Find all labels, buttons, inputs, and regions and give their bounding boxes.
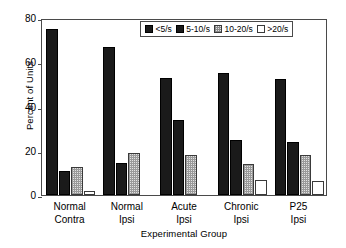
bar: [255, 180, 267, 195]
x-tick-label-line2: Ipsi: [270, 213, 327, 226]
x-tick-label-line1: Normal: [53, 201, 85, 212]
y-axis-tick-labels: 020406080: [10, 0, 36, 248]
x-tick-label: AcuteIpsi: [155, 200, 212, 226]
bar-group: [99, 20, 156, 195]
bar-series-container: [42, 20, 326, 195]
y-tick-label: 60: [10, 58, 36, 68]
bar: [287, 142, 299, 195]
x-tick-label-line1: P25: [289, 201, 307, 212]
x-tick-label-line2: Contra: [41, 213, 98, 226]
legend-label: >20/s: [267, 25, 288, 34]
y-tick-mark: [38, 109, 42, 110]
x-tick-label-line2: Ipsi: [98, 213, 155, 226]
y-tick-mark: [38, 153, 42, 154]
legend-item: <5/s: [145, 25, 172, 34]
chart-legend: <5/s5-10/s10-20/s>20/s: [140, 21, 293, 37]
bar: [275, 79, 287, 195]
bar: [230, 140, 242, 195]
bar: [173, 120, 185, 195]
x-axis-title: Experimental Group: [41, 228, 327, 239]
y-tick-mark: [38, 64, 42, 65]
legend-item: 5-10/s: [176, 25, 210, 34]
bar-group: [156, 20, 213, 195]
x-tick-label-line1: Chronic: [224, 201, 258, 212]
legend-swatch-icon: [257, 25, 265, 33]
y-tick-label: 0: [10, 191, 36, 201]
legend-item: 10-20/s: [214, 25, 253, 34]
legend-item: >20/s: [257, 25, 289, 34]
bar: [116, 163, 128, 195]
x-tick-label: P25Ipsi: [270, 200, 327, 226]
y-tick-mark: [38, 197, 42, 198]
bar: [160, 78, 172, 195]
y-tick-mark: [38, 20, 42, 21]
bar-chart-figure: Percent of Units 020406080 NormalContraN…: [0, 0, 346, 248]
bar: [59, 171, 71, 195]
y-tick-label: 20: [10, 147, 36, 157]
x-tick-label: NormalIpsi: [98, 200, 155, 226]
legend-swatch-icon: [176, 25, 184, 33]
bar-group: [42, 20, 99, 195]
x-tick-label-line2: Ipsi: [213, 213, 270, 226]
bar: [128, 153, 140, 195]
bar: [84, 191, 96, 195]
bar: [185, 155, 197, 195]
bar: [46, 29, 58, 195]
legend-swatch-icon: [214, 25, 222, 33]
bar: [300, 155, 312, 195]
bar: [71, 167, 83, 195]
x-tick-label-line2: Ipsi: [155, 213, 212, 226]
bar-group: [271, 20, 328, 195]
y-tick-label: 80: [10, 14, 36, 24]
bar: [218, 73, 230, 195]
x-tick-label: NormalContra: [41, 200, 98, 226]
x-tick-label-line1: Acute: [171, 201, 197, 212]
bar: [103, 47, 115, 195]
x-tick-label-line1: Normal: [111, 201, 143, 212]
y-tick-label: 40: [10, 103, 36, 113]
bar-group: [214, 20, 271, 195]
legend-swatch-icon: [145, 25, 153, 33]
bar: [312, 181, 324, 195]
plot-area: [41, 19, 327, 196]
legend-label: 10-20/s: [224, 25, 252, 34]
x-tick-label: ChronicIpsi: [213, 200, 270, 226]
legend-label: 5-10/s: [186, 25, 210, 34]
legend-label: <5/s: [156, 25, 172, 34]
bar: [243, 164, 255, 195]
